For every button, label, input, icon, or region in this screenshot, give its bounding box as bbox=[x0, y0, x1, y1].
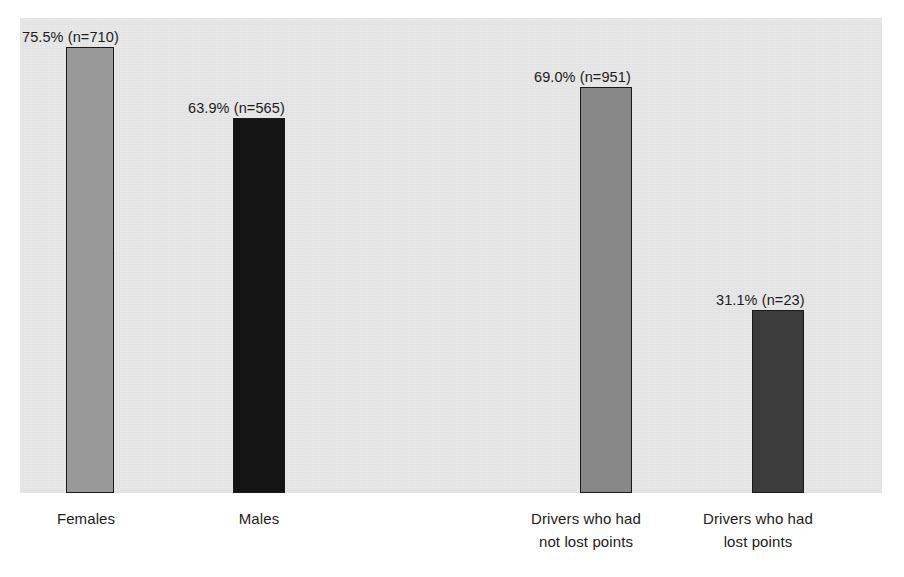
bar-males bbox=[233, 118, 285, 493]
bar-value-label-drivers-lost-points: 31.1% (n=23) bbox=[716, 292, 805, 308]
bar-drivers-lost-points bbox=[752, 310, 804, 493]
category-label-line: lost points bbox=[675, 530, 841, 553]
category-label-line: not lost points bbox=[503, 530, 669, 553]
bar-drivers-not-lost-points bbox=[580, 87, 632, 493]
plot-area: 75.5% (n=710) 63.9% (n=565) 69.0% (n=951… bbox=[20, 18, 882, 493]
bar-value-label-males: 63.9% (n=565) bbox=[188, 100, 285, 116]
bar-females bbox=[66, 47, 114, 493]
bar-value-label-drivers-not-lost-points: 69.0% (n=951) bbox=[534, 69, 631, 85]
category-label-drivers-lost-points: Drivers who had lost points bbox=[675, 507, 841, 553]
category-label-drivers-not-lost-points: Drivers who had not lost points bbox=[503, 507, 669, 553]
bar-value-label-females: 75.5% (n=710) bbox=[22, 29, 119, 45]
category-label-line: Females bbox=[16, 507, 156, 530]
category-label-line: Drivers who had bbox=[503, 507, 669, 530]
bar-chart: 75.5% (n=710) 63.9% (n=565) 69.0% (n=951… bbox=[0, 0, 904, 577]
category-label-females: Females bbox=[16, 507, 156, 530]
category-label-line: Males bbox=[189, 507, 329, 530]
category-label-males: Males bbox=[189, 507, 329, 530]
category-label-line: Drivers who had bbox=[675, 507, 841, 530]
